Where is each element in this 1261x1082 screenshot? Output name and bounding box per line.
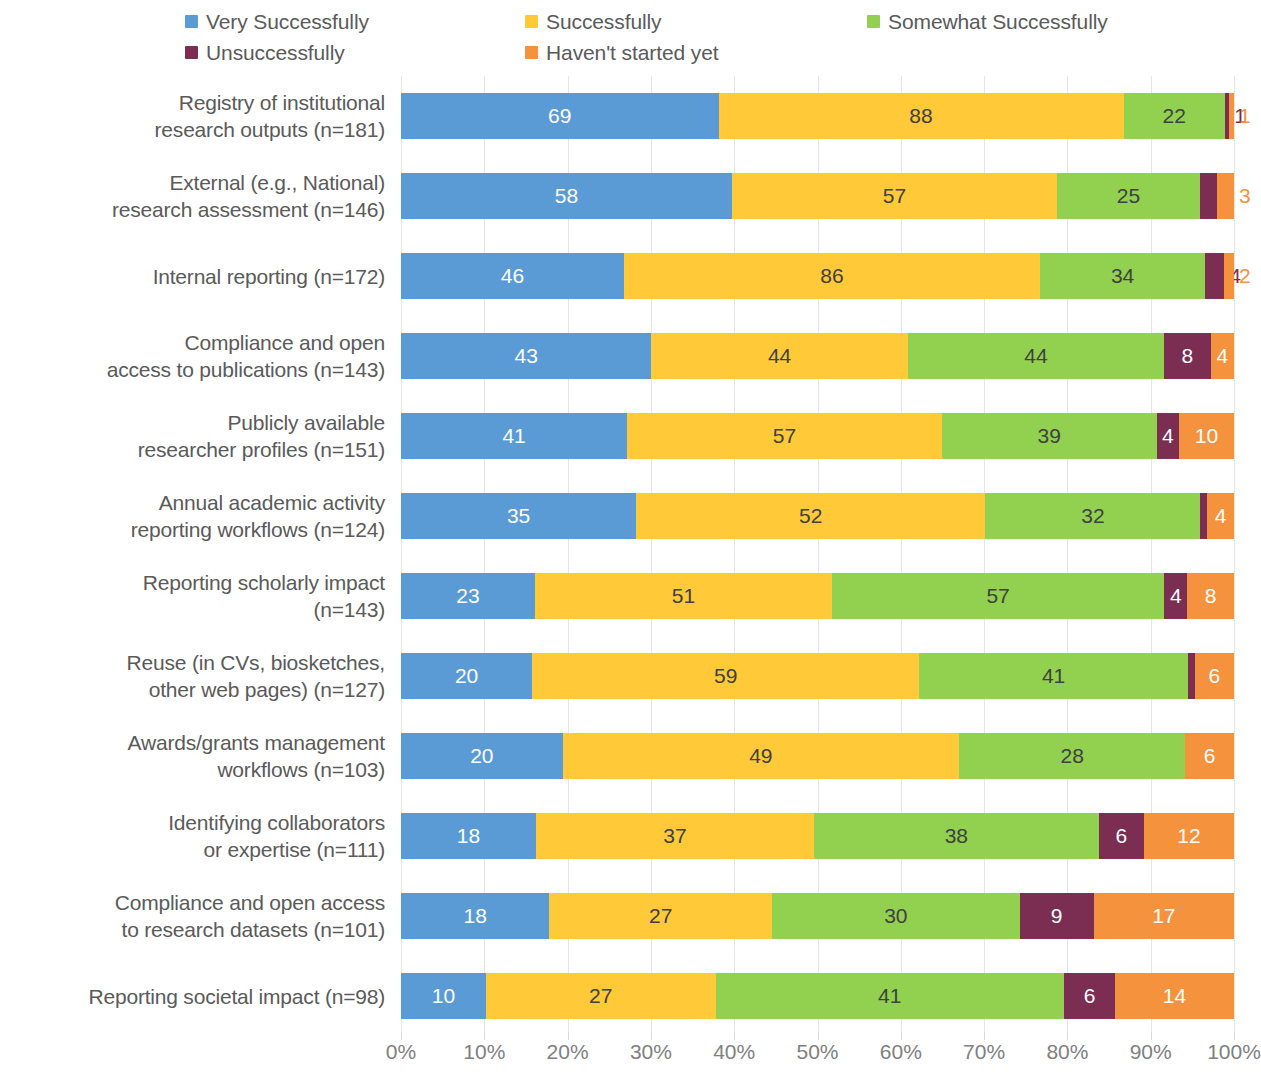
bar-segment[interactable]: 17 xyxy=(1094,893,1234,939)
bar-segment[interactable]: 1 xyxy=(1200,493,1207,539)
bar-segment[interactable]: 8 xyxy=(1164,333,1211,379)
bar-track: 2049286 xyxy=(401,733,1234,779)
bar-rows: Registry of institutionalresearch output… xyxy=(0,76,1248,1036)
bar-segment-value: 2 xyxy=(1239,264,1251,288)
bar-segment-value: 18 xyxy=(457,824,480,848)
bar-segment[interactable]: 4 xyxy=(1207,493,1234,539)
bar-segment[interactable]: 57 xyxy=(732,173,1057,219)
bar-segment-value: 27 xyxy=(649,904,672,928)
bar-segment[interactable]: 44 xyxy=(651,333,907,379)
category-label: Identifying collaboratorsor expertise (n… xyxy=(0,796,385,876)
bar-row: Registry of institutionalresearch output… xyxy=(0,76,1248,156)
bar-segment[interactable]: 57 xyxy=(832,573,1164,619)
bar-segment-value: 6 xyxy=(1208,664,1220,688)
bar-segment-value: 32 xyxy=(1081,504,1104,528)
bar-segment-value: 30 xyxy=(884,904,907,928)
bar-segment[interactable]: 20 xyxy=(401,733,563,779)
category-label-line: researcher profiles (n=151) xyxy=(138,436,385,463)
bar-segment[interactable]: 46 xyxy=(401,253,624,299)
bar-segment[interactable]: 52 xyxy=(636,493,985,539)
bar-segment[interactable]: 3 xyxy=(1200,173,1217,219)
bar-segment[interactable]: 4 xyxy=(1205,253,1224,299)
bar-segment[interactable]: 43 xyxy=(401,333,651,379)
bar-segment[interactable]: 57 xyxy=(627,413,941,459)
bar-segment[interactable]: 18 xyxy=(401,893,549,939)
bar-segment[interactable]: 18 xyxy=(401,813,536,859)
bar-segment-value: 14 xyxy=(1163,984,1186,1008)
bar-segment[interactable]: 4 xyxy=(1157,413,1179,459)
x-tick-mark xyxy=(1234,1032,1235,1040)
bar-segment[interactable]: 44 xyxy=(908,333,1164,379)
bar-segment[interactable]: 41 xyxy=(716,973,1065,1019)
bar-segment[interactable]: 3 xyxy=(1217,173,1234,219)
bar-segment[interactable]: 49 xyxy=(563,733,959,779)
bar-segment[interactable]: 34 xyxy=(1040,253,1205,299)
category-label-line: Publicly available xyxy=(228,409,386,436)
bar-segment[interactable]: 32 xyxy=(985,493,1200,539)
bar-segment[interactable]: 41 xyxy=(401,413,627,459)
bar-segment[interactable]: 86 xyxy=(624,253,1041,299)
legend-item[interactable]: Somewhat Successfully xyxy=(867,6,1185,37)
bar-segment[interactable]: 25 xyxy=(1057,173,1200,219)
bar-segment[interactable]: 22 xyxy=(1124,93,1225,139)
legend-item[interactable]: Haven't started yet xyxy=(525,37,867,68)
bar-segment[interactable]: 23 xyxy=(401,573,535,619)
bar-segment[interactable]: 35 xyxy=(401,493,636,539)
bar-track: 43444484 xyxy=(401,333,1234,379)
bar-segment[interactable]: 4 xyxy=(1211,333,1234,379)
bar-segment[interactable]: 58 xyxy=(401,173,732,219)
bar-segment-value: 22 xyxy=(1162,104,1185,128)
bar-segment[interactable]: 12 xyxy=(1144,813,1234,859)
bar-segment[interactable]: 6 xyxy=(1195,653,1234,699)
bar-segment[interactable]: 6 xyxy=(1064,973,1115,1019)
bar-track: 46863442 xyxy=(401,253,1234,299)
x-tick-mark xyxy=(734,1032,735,1040)
bar-segment[interactable]: 39 xyxy=(942,413,1157,459)
bar-segment[interactable]: 30 xyxy=(772,893,1019,939)
bar-track: 415739410 xyxy=(401,413,1234,459)
bar-segment-value: 39 xyxy=(1038,424,1061,448)
bar-segment[interactable]: 6 xyxy=(1099,813,1144,859)
bar-segment-value: 3 xyxy=(1239,184,1251,208)
plot-area: Registry of institutionalresearch output… xyxy=(0,76,1248,1036)
bar-segment[interactable]: 10 xyxy=(401,973,486,1019)
bar-segment-value: 38 xyxy=(945,824,968,848)
bar-row: Compliance and open accessto research da… xyxy=(0,876,1248,956)
bar-segment[interactable]: 37 xyxy=(536,813,814,859)
bar-track: 23515748 xyxy=(401,573,1234,619)
bar-segment[interactable]: 27 xyxy=(486,973,716,1019)
bar-segment[interactable]: 8 xyxy=(1187,573,1234,619)
legend-swatch-icon xyxy=(867,15,880,28)
legend-item[interactable]: Unsuccessfully xyxy=(185,37,525,68)
bar-segment[interactable]: 10 xyxy=(1179,413,1234,459)
category-label-line: (n=143) xyxy=(313,596,385,623)
bar-segment[interactable]: 69 xyxy=(401,93,719,139)
bar-segment[interactable]: 20 xyxy=(401,653,532,699)
bar-segment-value: 18 xyxy=(464,904,487,928)
bar-segment[interactable]: 6 xyxy=(1185,733,1234,779)
bar-row: Publicly availableresearcher profiles (n… xyxy=(0,396,1248,476)
legend-item[interactable]: Successfully xyxy=(525,6,867,37)
legend-label: Haven't started yet xyxy=(546,41,719,65)
legend-item[interactable]: Very Successfully xyxy=(185,6,525,37)
bar-segment[interactable]: 1 xyxy=(1229,93,1234,139)
bar-segment[interactable]: 38 xyxy=(814,813,1099,859)
bar-segment[interactable]: 2 xyxy=(1224,253,1234,299)
bar-segment[interactable]: 4 xyxy=(1164,573,1187,619)
bar-segment[interactable]: 59 xyxy=(532,653,919,699)
category-label-line: Registry of institutional xyxy=(179,89,385,116)
bar-segment[interactable]: 9 xyxy=(1020,893,1094,939)
bar-segment-value: 23 xyxy=(456,584,479,608)
bar-segment[interactable]: 14 xyxy=(1115,973,1234,1019)
bar-segment[interactable]: 27 xyxy=(549,893,772,939)
category-label: Reporting scholarly impact(n=143) xyxy=(0,556,385,636)
bar-segment[interactable]: 41 xyxy=(919,653,1188,699)
bar-segment-value: 27 xyxy=(589,984,612,1008)
bar-segment-value: 10 xyxy=(432,984,455,1008)
bar-segment-value: 28 xyxy=(1061,744,1084,768)
bar-segment-value: 49 xyxy=(749,744,772,768)
bar-segment[interactable]: 88 xyxy=(719,93,1124,139)
bar-segment[interactable]: 51 xyxy=(535,573,832,619)
bar-segment[interactable]: 28 xyxy=(959,733,1185,779)
